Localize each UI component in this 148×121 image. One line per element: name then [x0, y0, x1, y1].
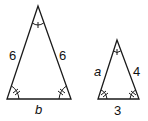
large-triangle: 6 6 b	[7, 6, 71, 117]
small-left-side-label: a	[94, 64, 101, 79]
large-base-label: b	[35, 102, 42, 117]
large-left-side-label: 6	[9, 48, 16, 63]
small-right-side-label: 4	[133, 64, 140, 79]
small-triangle: a 4 3	[94, 40, 140, 118]
similar-triangles-diagram: 6 6 b a 4 3	[0, 0, 148, 121]
small-base-label: 3	[114, 103, 121, 118]
large-right-side-label: 6	[59, 48, 66, 63]
